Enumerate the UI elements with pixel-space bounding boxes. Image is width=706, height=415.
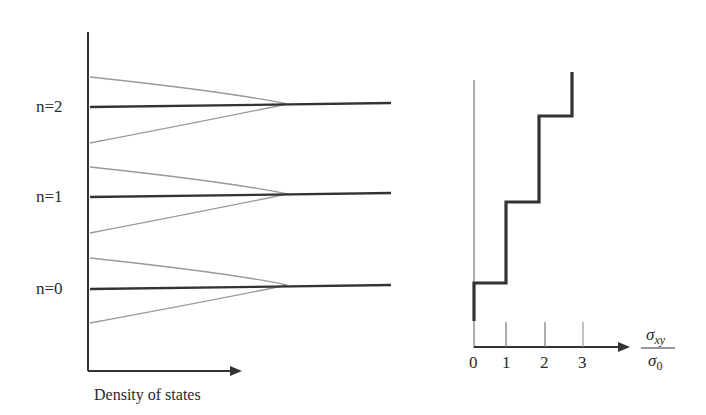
dos-curve: [90, 77, 287, 143]
tick-label-3: 3: [578, 353, 587, 372]
energy-level-line: [90, 193, 391, 197]
dos-curve: [90, 167, 287, 233]
hall-step-curve: [474, 72, 572, 321]
numerator-subscript: xy: [653, 333, 665, 347]
tick-label-0: 0: [469, 353, 478, 372]
level-label-n2: n=2: [36, 97, 63, 116]
energy-level-line: [90, 285, 391, 289]
conductance-axis-label: σxy σ0: [641, 325, 675, 373]
dos-curve: [90, 258, 287, 323]
figure: n=2 n=1 n=0 Density of states 0 1 2 3 σx…: [0, 0, 706, 415]
svg-text:σ0: σ0: [648, 351, 662, 373]
level-label-n0: n=0: [36, 279, 63, 298]
svg-text:σxy: σxy: [646, 325, 666, 347]
level-n1: [90, 167, 391, 233]
level-n2: [90, 77, 391, 143]
dos-axis-label: Density of states: [94, 386, 201, 404]
level-n0: [90, 258, 391, 323]
hall-panel: 0 1 2 3 σxy σ0: [469, 72, 675, 373]
level-label-n1: n=1: [36, 187, 63, 206]
arrow-right-icon: [230, 366, 242, 376]
arrow-right-icon: [618, 342, 630, 352]
tick-label-2: 2: [540, 353, 549, 372]
energy-level-line: [90, 103, 391, 107]
dos-panel: n=2 n=1 n=0 Density of states: [36, 32, 391, 404]
tick-label-1: 1: [502, 353, 511, 372]
denominator-subscript: 0: [656, 359, 662, 373]
